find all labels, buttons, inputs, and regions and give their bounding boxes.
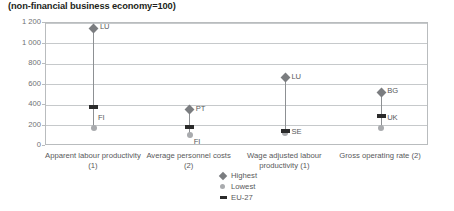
legend-swatch-diamond-icon — [219, 171, 227, 179]
data-point-eu27[interactable] — [281, 129, 290, 133]
y-axis-tick-mark — [42, 145, 45, 146]
legend-item[interactable]: Lowest — [219, 181, 309, 192]
legend-swatch-circle-icon — [220, 184, 225, 189]
data-point-highest[interactable] — [185, 105, 195, 115]
gridline — [46, 84, 427, 85]
x-axis-category-label: Average personnel costs (2) — [141, 151, 237, 170]
gridline — [46, 105, 427, 106]
legend-item-label: EU-27 — [231, 193, 253, 202]
legend-item-label: Lowest — [231, 182, 255, 191]
y-axis-tick-label: 400 — [28, 100, 41, 108]
y-axis-tick-label: 0 — [37, 141, 41, 149]
gridline — [46, 64, 427, 65]
data-point-highest[interactable] — [280, 73, 290, 83]
data-point-eu27[interactable] — [185, 125, 194, 129]
data-point-lowest[interactable] — [378, 125, 384, 131]
range-stem — [93, 28, 94, 127]
y-axis-tick-label: 800 — [28, 59, 41, 67]
data-point-label-lowest: FI — [194, 138, 201, 146]
data-point-lowest[interactable] — [91, 125, 97, 131]
chart-title: (non-financial business economy=100) — [8, 1, 176, 11]
data-point-label-lowest: FI — [98, 114, 105, 122]
data-point-highest[interactable] — [376, 87, 386, 97]
legend-item[interactable]: Highest — [219, 170, 309, 181]
data-point-eu27[interactable] — [89, 105, 98, 109]
data-point-eu27[interactable] — [377, 114, 386, 118]
data-point-highest[interactable] — [89, 23, 99, 33]
y-axis-tick-label: 600 — [28, 80, 41, 88]
x-axis-category-label: Wage adjusted labour productivity (1) — [237, 151, 333, 170]
x-axis-category-label: Apparent labour productivity (1) — [45, 151, 141, 170]
y-axis-tick-label: 1 000 — [22, 39, 41, 47]
data-point-label-highest: LU — [291, 73, 301, 81]
legend-item-label: Highest — [231, 171, 257, 180]
legend-item[interactable]: EU-27 — [219, 192, 309, 203]
y-axis-tick-label: 1 200 — [22, 18, 41, 26]
plot-area: LUFIPTFILUSEBGUK — [45, 22, 428, 145]
data-point-lowest[interactable] — [187, 132, 193, 138]
chart-legend: HighestLowestEU-27 — [219, 170, 309, 203]
data-point-label-lowest: UK — [387, 114, 398, 122]
data-point-label-highest: BG — [387, 87, 398, 95]
x-axis-category-label: Gross operating rate (2) — [332, 151, 428, 161]
data-point-label-highest: PT — [196, 105, 206, 113]
range-stem — [285, 78, 286, 133]
chart-container: (non-financial business economy=100) 020… — [0, 0, 454, 211]
data-point-label-highest: LU — [100, 23, 110, 31]
legend-swatch-dash-icon — [220, 196, 227, 199]
gridline — [46, 125, 427, 126]
data-point-label-lowest: SE — [291, 128, 301, 136]
y-axis-tick-label: 200 — [28, 121, 41, 129]
gridline — [46, 43, 427, 44]
